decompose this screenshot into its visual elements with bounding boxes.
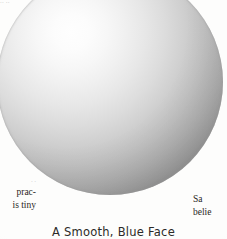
left-column-scrap: · · — [0, 179, 36, 186]
sphere-limb-edge — [0, 0, 223, 195]
figure-caption: A Smooth, Blue Face — [0, 226, 227, 239]
left-column-text: · · prac- is tiny — [0, 179, 36, 211]
left-column-line-2: is tiny — [0, 199, 36, 212]
right-column-line-2: belie — [193, 206, 227, 219]
right-column-line-1: Sa — [193, 193, 227, 206]
page-corner-text-scrap: ·· ·· — [0, 0, 10, 6]
figure-sphere — [0, 0, 223, 195]
left-column-line-1: prac- — [0, 186, 36, 199]
scanned-page: ·· ·· · · prac- is tiny Sa belie A Smoot… — [0, 0, 227, 239]
right-column-text: Sa belie — [193, 193, 227, 219]
